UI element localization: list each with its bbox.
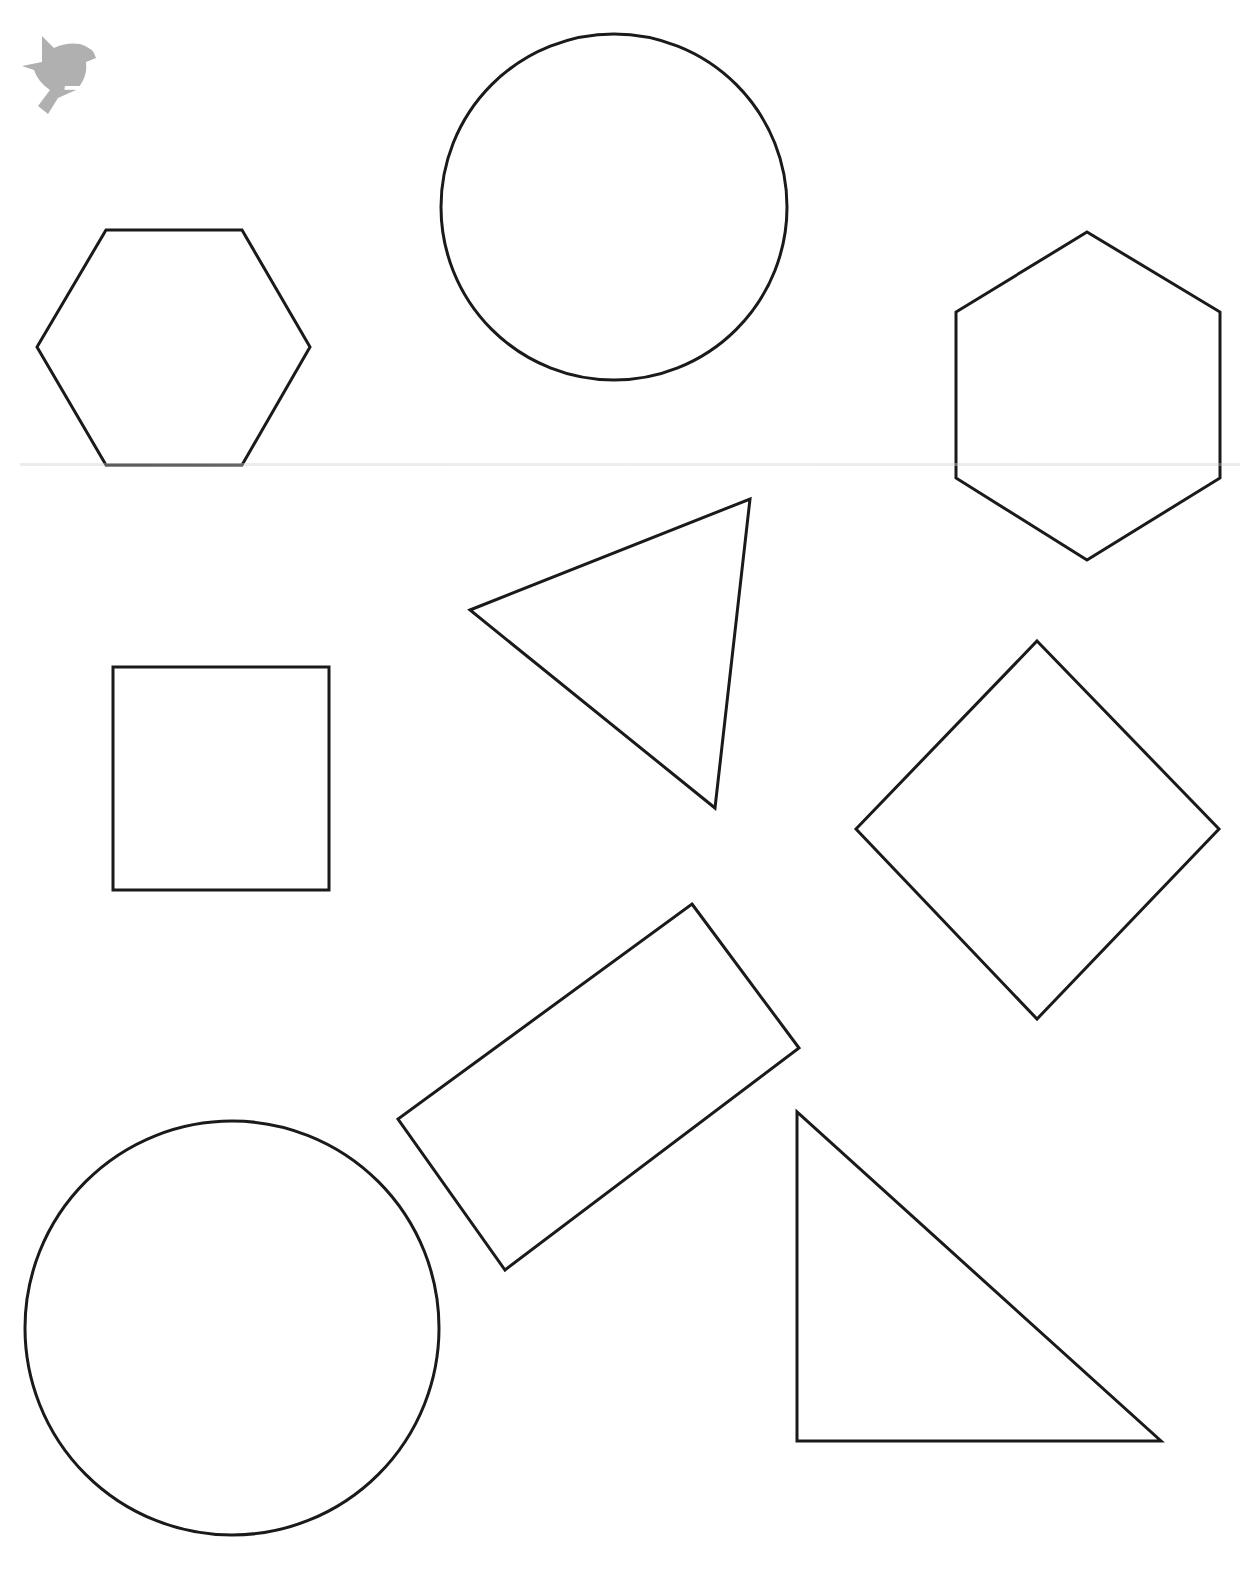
dove-icon: 7: [14, 26, 110, 122]
circle-bottom-shape: [25, 1121, 439, 1535]
scan-artifact-line: [20, 463, 1240, 466]
worksheet-canvas: [0, 0, 1257, 1582]
right-triangle-shape: [797, 1112, 1161, 1441]
diamond-right-shape: [856, 641, 1219, 1019]
hexagon-right-shape: [956, 232, 1220, 560]
hexagon-left-shape: [37, 230, 310, 465]
dove-shape: [22, 36, 96, 114]
square-left-shape: [113, 667, 329, 890]
logo-number: 7: [62, 78, 81, 117]
circle-top-shape: [441, 34, 787, 380]
triangle-middle-shape: [470, 499, 750, 808]
rectangle-tilted-shape: [398, 904, 799, 1270]
